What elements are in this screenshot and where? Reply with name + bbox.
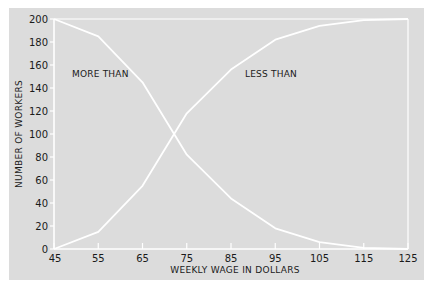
x-tick-label: 45	[49, 253, 62, 264]
y-tick-label: 40	[35, 198, 48, 209]
x-tick-label: 65	[136, 253, 149, 264]
series-line-more-than	[54, 19, 408, 249]
x-axis-title: WEEKLY WAGE IN DOLLARS	[170, 265, 300, 275]
series-label-more-than: MORE THAN	[72, 69, 129, 79]
y-tick-label: 180	[29, 37, 48, 48]
x-tick-label: 105	[310, 253, 329, 264]
series-lines	[54, 19, 408, 249]
y-tick-label: 0	[42, 244, 48, 255]
y-tick-label: 200	[29, 14, 48, 25]
axes	[50, 19, 408, 249]
y-tick-label: 60	[35, 175, 48, 186]
y-tick-label: 160	[29, 60, 48, 71]
line-chart: 0204060801001201401601802004555657585951…	[0, 0, 432, 288]
y-tick-label: 120	[29, 106, 48, 117]
y-tick-label: 20	[35, 221, 48, 232]
x-tick-label: 95	[269, 253, 282, 264]
y-tick-label: 100	[29, 129, 48, 140]
series-line-less-than	[54, 19, 408, 249]
y-axis-title: NUMBER OF WORKERS	[14, 80, 24, 188]
x-tick-label: 75	[180, 253, 193, 264]
x-tick-label: 55	[92, 253, 105, 264]
series-label-less-than: LESS THAN	[245, 69, 297, 79]
x-tick-label: 115	[354, 253, 373, 264]
y-tick-label: 140	[29, 83, 48, 94]
x-tick-label: 125	[398, 253, 417, 264]
axis-labels: 0204060801001201401601802004555657585951…	[29, 14, 418, 265]
y-tick-label: 80	[35, 152, 48, 163]
x-tick-label: 85	[225, 253, 238, 264]
